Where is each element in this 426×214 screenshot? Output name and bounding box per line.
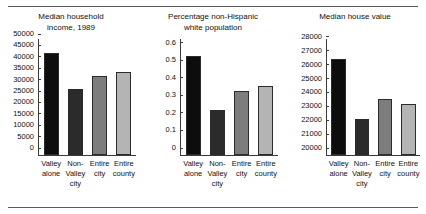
- bar-slot: [112, 42, 136, 155]
- bar-slot: [63, 42, 87, 155]
- x-category-label: Valley alone: [327, 156, 350, 179]
- y-tick-label: 26000: [301, 61, 326, 69]
- bar: [234, 91, 249, 155]
- x-category-label: Valley alone: [39, 156, 63, 179]
- bar: [92, 76, 107, 155]
- y-tick-label: 0.2: [166, 109, 180, 117]
- bar: [44, 53, 59, 155]
- y-tick-label: 30000: [13, 76, 38, 84]
- x-category-label: Entire city: [374, 156, 397, 179]
- bar-slot: [205, 42, 229, 155]
- chart-panel-percentage-non-hispanic-white: Percentage non-Hispanic white population…: [142, 10, 284, 204]
- y-tick-label: 21000: [301, 130, 326, 138]
- y-tick-label: 5000: [17, 133, 38, 141]
- bar-slot: [88, 42, 112, 155]
- bar-slot: [181, 42, 205, 155]
- y-tick-label: 27000: [301, 47, 326, 55]
- y-tick-label: 0.1: [166, 126, 180, 134]
- x-category-label: Entire county: [112, 156, 136, 179]
- bar: [258, 86, 273, 155]
- bar: [116, 72, 131, 155]
- chart-title: Median house value: [284, 12, 426, 23]
- figure-panel-group: Median household income, 1989 0500010000…: [0, 0, 426, 214]
- x-category-labels: Valley aloneNon- Valley cityEntire cityE…: [181, 156, 278, 198]
- y-tick-label: 0.4: [166, 74, 180, 82]
- y-tick-label: 45000: [13, 41, 38, 49]
- y-tick-label: 25000: [301, 75, 326, 83]
- x-category-label: Entire city: [230, 156, 254, 179]
- bar: [401, 104, 415, 155]
- x-category-label: Non- Valley city: [350, 156, 373, 189]
- x-category-labels: Valley aloneNon- Valley cityEntire cityE…: [39, 156, 136, 198]
- x-category-label: Entire county: [397, 156, 420, 179]
- x-category-label: Valley alone: [181, 156, 205, 179]
- y-tick-label: 22000: [301, 116, 326, 124]
- bar-slot: [254, 42, 278, 155]
- y-tick-label: 0.6: [166, 39, 180, 47]
- bar: [186, 56, 201, 155]
- bar-slot: [39, 42, 63, 155]
- bar: [378, 99, 392, 156]
- y-tick-label: 40000: [13, 53, 38, 61]
- top-rule: [8, 6, 418, 7]
- bar-slot: [374, 42, 397, 155]
- bar: [210, 110, 225, 155]
- bar-series: [39, 42, 136, 155]
- x-category-label: Non- Valley city: [205, 156, 229, 189]
- plot-area-2: 2000021000220002300024000250002600027000…: [326, 42, 420, 156]
- y-tick-label: 20000: [13, 98, 38, 106]
- bottom-rule: [8, 207, 418, 208]
- y-tick-mark: [38, 34, 41, 35]
- chart-panel-median-household-income: Median household income, 1989 0500010000…: [0, 10, 142, 204]
- y-tick-label: 0: [172, 144, 180, 152]
- chart-panel-median-house-value: Median house value 200002100022000230002…: [284, 10, 426, 204]
- y-tick-label: 0: [30, 144, 38, 152]
- bar: [355, 119, 369, 155]
- chart-panels: Median household income, 1989 0500010000…: [0, 10, 426, 204]
- plot-area-0: 0500010000150002000025000300003500040000…: [38, 42, 136, 156]
- y-tick-label: 23000: [301, 102, 326, 110]
- y-tick-mark: [326, 36, 329, 37]
- y-tick-label: 28000: [301, 33, 326, 41]
- x-category-labels: Valley aloneNon- Valley cityEntire cityE…: [327, 156, 420, 198]
- y-tick-label: 0.3: [166, 91, 180, 99]
- y-tick-label: 0.5: [166, 56, 180, 64]
- y-tick-label: 50000: [13, 30, 38, 38]
- bar-slot: [327, 42, 350, 155]
- x-category-label: Entire county: [254, 156, 278, 179]
- y-tick-label: 24000: [301, 88, 326, 96]
- bar-slot: [350, 42, 373, 155]
- chart-title: Percentage non-Hispanic white population: [142, 12, 284, 33]
- y-tick-label: 10000: [13, 121, 38, 129]
- x-category-label: Non- Valley city: [63, 156, 87, 189]
- y-tick-label: 20000: [301, 144, 326, 152]
- y-tick-label: 35000: [13, 64, 38, 72]
- bar-slot: [230, 42, 254, 155]
- y-tick-label: 25000: [13, 87, 38, 95]
- plot-area-1: 00.10.20.30.40.50.6: [180, 42, 278, 156]
- x-category-label: Entire city: [88, 156, 112, 179]
- bar-series: [181, 42, 278, 155]
- bar-slot: [397, 42, 420, 155]
- bar: [68, 89, 83, 155]
- y-tick-label: 15000: [13, 110, 38, 118]
- bar: [331, 59, 345, 155]
- bar-series: [327, 42, 420, 155]
